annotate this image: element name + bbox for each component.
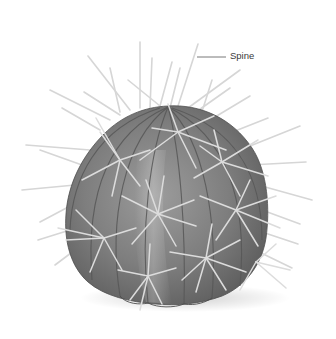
spine-label: Spine [230,51,254,61]
cactus-diagram: Spine [0,0,336,339]
cactus-illustration [0,0,336,339]
